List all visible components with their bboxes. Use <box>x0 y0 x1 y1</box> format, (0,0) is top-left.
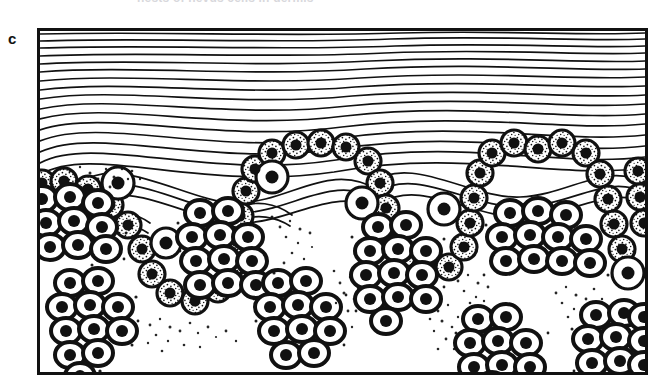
figure-stage: nests of nevus cells in dermis c <box>0 0 671 392</box>
panel-letter-c: c <box>8 30 16 47</box>
histology-diagram-svg <box>40 31 645 372</box>
cell-nest <box>40 184 121 262</box>
figure-frame <box>37 28 648 375</box>
caption-fragment-text: nests of nevus cells in dermis <box>137 0 537 5</box>
cell-nest <box>573 300 645 372</box>
